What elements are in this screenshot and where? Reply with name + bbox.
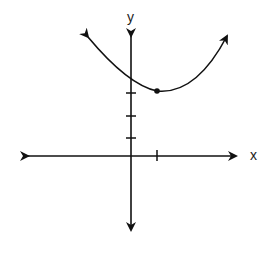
graph-canvas <box>0 0 270 256</box>
x-axis-label: x <box>250 148 257 162</box>
y-axis-label: y <box>127 10 134 24</box>
parabola-curve <box>88 36 227 91</box>
vertex-point <box>154 88 160 94</box>
